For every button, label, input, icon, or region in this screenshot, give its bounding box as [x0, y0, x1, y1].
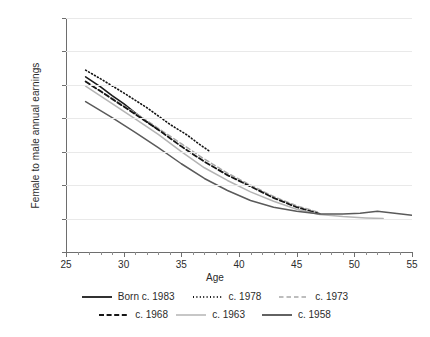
legend-label: c. 1978	[229, 291, 262, 303]
x-tick-minor	[308, 252, 309, 255]
legend-label: c. 1968	[135, 309, 168, 321]
gridline	[66, 51, 412, 52]
legend-swatch-line-icon	[262, 310, 292, 320]
legend-label: c. 1958	[298, 309, 331, 321]
chart-legend: Born c. 1983c. 1978c. 1973c. 1968c. 1963…	[0, 288, 430, 324]
x-tick-major	[412, 252, 413, 257]
gridline	[66, 152, 412, 153]
legend-label: Born c. 1983	[118, 291, 175, 303]
gridline	[66, 118, 412, 119]
x-tick-label: 30	[109, 259, 139, 270]
x-tick-minor	[343, 252, 344, 255]
series-layer	[66, 18, 412, 252]
gridline	[66, 85, 412, 86]
y-axis-title: Female to male annual earnings	[30, 6, 41, 266]
x-tick-minor	[78, 252, 79, 255]
legend-swatch-line-icon	[193, 292, 223, 302]
x-tick-minor	[262, 252, 263, 255]
x-axis-title: Age	[0, 272, 430, 283]
x-tick-minor	[101, 252, 102, 255]
legend-item[interactable]: Born c. 1983	[82, 291, 175, 303]
x-tick-minor	[158, 252, 159, 255]
legend-swatch-line-icon	[279, 292, 309, 302]
x-tick-label: 35	[166, 259, 196, 270]
x-tick-minor	[389, 252, 390, 255]
legend-swatch-line-icon	[176, 310, 206, 320]
x-tick-minor	[89, 252, 90, 255]
x-tick-minor	[331, 252, 332, 255]
x-tick-minor	[320, 252, 321, 255]
legend-swatch-line-icon	[99, 310, 129, 320]
x-tick-minor	[227, 252, 228, 255]
x-tick-minor	[135, 252, 136, 255]
legend-label: c. 1973	[315, 291, 348, 303]
gridline	[66, 18, 412, 19]
x-tick-label: 50	[339, 259, 369, 270]
plot-area	[66, 18, 412, 252]
x-tick-label: 25	[51, 259, 81, 270]
x-tick-minor	[251, 252, 252, 255]
legend-item[interactable]: c. 1973	[279, 291, 348, 303]
x-tick-minor	[193, 252, 194, 255]
legend-swatch-line-icon	[82, 292, 112, 302]
x-tick-minor	[216, 252, 217, 255]
x-tick-major	[124, 252, 125, 257]
legend-item[interactable]: c. 1968	[99, 309, 133, 321]
x-tick-label: 45	[282, 259, 312, 270]
gridline	[66, 185, 412, 186]
x-tick-minor	[285, 252, 286, 255]
x-tick-minor	[400, 252, 401, 255]
x-tick-minor	[170, 252, 171, 255]
x-tick-label: 55	[397, 259, 427, 270]
x-tick-major	[239, 252, 240, 257]
chart-figure: Female to male annual earnings 0.650.70.…	[0, 0, 430, 337]
x-tick-minor	[112, 252, 113, 255]
x-tick-minor	[366, 252, 367, 255]
x-tick-major	[354, 252, 355, 257]
legend-row: c. 1968c. 1963c. 1958	[0, 306, 430, 324]
legend-row: Born c. 1983c. 1978c. 1973	[0, 288, 430, 306]
x-tick-major	[66, 252, 67, 257]
x-tick-label: 40	[224, 259, 254, 270]
x-tick-major	[297, 252, 298, 257]
x-tick-minor	[377, 252, 378, 255]
x-tick-minor	[147, 252, 148, 255]
legend-label: c. 1963	[212, 309, 245, 321]
x-tick-minor	[204, 252, 205, 255]
series-line	[86, 70, 211, 152]
x-tick-major	[181, 252, 182, 257]
x-tick-minor	[274, 252, 275, 255]
gridline	[66, 219, 412, 220]
legend-item[interactable]: c. 1963	[176, 309, 245, 321]
legend-item[interactable]: c. 1958	[262, 309, 331, 321]
legend-item[interactable]: c. 1978	[193, 291, 262, 303]
